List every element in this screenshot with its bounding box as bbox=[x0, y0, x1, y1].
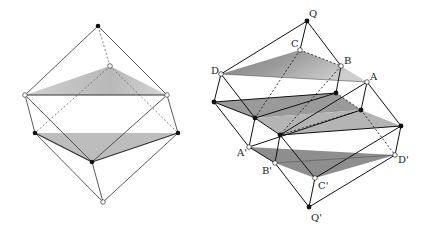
vertex-right-low bbox=[176, 131, 181, 136]
point-Q bbox=[305, 19, 310, 24]
point-mid-2 bbox=[334, 91, 339, 96]
label-C: C bbox=[291, 38, 299, 49]
vertex-left bbox=[23, 93, 28, 98]
point-mid-4 bbox=[359, 108, 364, 113]
label-A: A bbox=[369, 71, 378, 82]
label-C-prime: C' bbox=[318, 180, 328, 191]
label-Q-prime: Q' bbox=[311, 212, 322, 223]
point-D bbox=[219, 72, 224, 77]
vertex-bottom bbox=[101, 200, 106, 205]
point-mid-1 bbox=[212, 100, 217, 105]
point-A bbox=[365, 80, 370, 85]
label-D-prime: D' bbox=[398, 154, 409, 165]
point-C-prime bbox=[313, 176, 318, 181]
point-B-prime bbox=[273, 161, 278, 166]
label-A-prime: A' bbox=[236, 147, 247, 158]
vertex-right bbox=[165, 93, 170, 98]
visible-edges bbox=[25, 26, 178, 202]
label-D: D bbox=[211, 65, 219, 76]
point-B bbox=[339, 64, 344, 69]
point-A-prime bbox=[247, 145, 252, 150]
vertex-top bbox=[96, 24, 101, 29]
label-Q: Q bbox=[309, 8, 317, 19]
vertex-back bbox=[108, 64, 113, 69]
vertex-front bbox=[90, 160, 95, 165]
point-Q-prime bbox=[307, 205, 312, 210]
upper-slice bbox=[25, 66, 167, 95]
label-B: B bbox=[344, 55, 351, 66]
diagram-canvas: Q C B D A A' B' D' C' Q' bbox=[0, 0, 424, 230]
right-figure: Q C B D A A' B' D' C' Q' bbox=[211, 8, 409, 223]
label-B-prime: B' bbox=[262, 165, 272, 176]
point-mid-5 bbox=[278, 133, 283, 138]
point-D-prime bbox=[393, 153, 398, 158]
left-figure bbox=[23, 24, 181, 205]
point-mid-3 bbox=[253, 116, 258, 121]
vertex-left-low bbox=[33, 131, 38, 136]
point-mid-6 bbox=[399, 124, 404, 129]
